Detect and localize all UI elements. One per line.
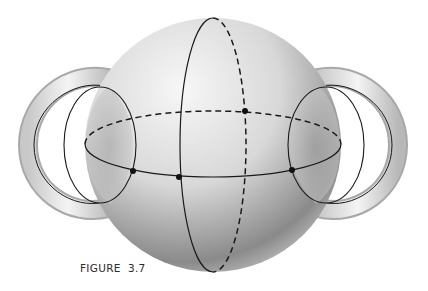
point-right-intersection [289, 167, 295, 173]
point-front-meridian [176, 174, 182, 180]
figure-caption: FIGURE 3.7 [80, 262, 146, 274]
point-back-meridian [242, 108, 248, 114]
point-left-intersection [130, 168, 136, 174]
sphere-with-handles-diagram [0, 0, 428, 291]
